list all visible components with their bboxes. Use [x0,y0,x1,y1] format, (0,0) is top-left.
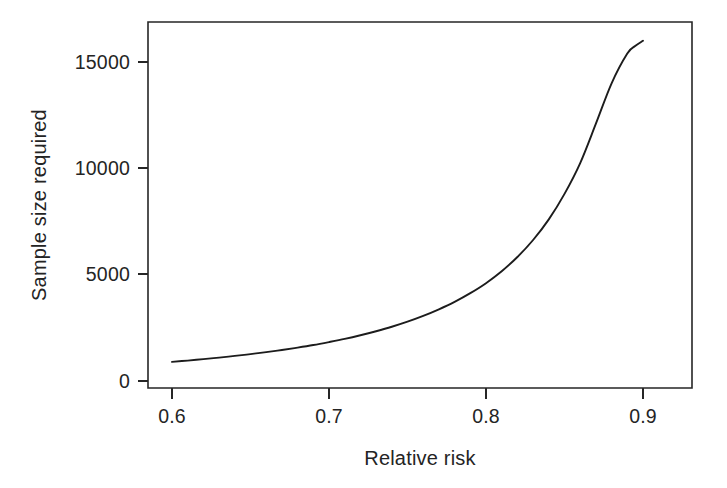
x-axis-title: Relative risk [364,447,476,469]
y-tick-label-5000: 5000 [86,263,130,285]
figure-container: 0 5000 10000 15000 0.6 0.7 0.8 0.9 Relat… [0,0,727,488]
x-axis-tick-labels: 0.6 0.7 0.8 0.9 [158,405,657,427]
x-axis-ticks [172,388,643,399]
y-tick-label-10000: 10000 [75,157,130,179]
x-tick-label-0-8: 0.8 [472,405,500,427]
y-axis-title: Sample size required [28,109,50,301]
y-axis-ticks [138,62,148,381]
y-tick-label-15000: 15000 [75,51,130,73]
x-tick-label-0-9: 0.9 [629,405,657,427]
y-tick-label-0: 0 [119,370,130,392]
x-tick-label-0-7: 0.7 [315,405,343,427]
chart-svg: 0 5000 10000 15000 0.6 0.7 0.8 0.9 Relat… [0,0,727,488]
plot-frame [148,22,692,388]
x-tick-label-0-6: 0.6 [158,405,186,427]
data-curve-sample-size [172,41,643,362]
y-axis-tick-labels: 0 5000 10000 15000 [75,51,130,392]
